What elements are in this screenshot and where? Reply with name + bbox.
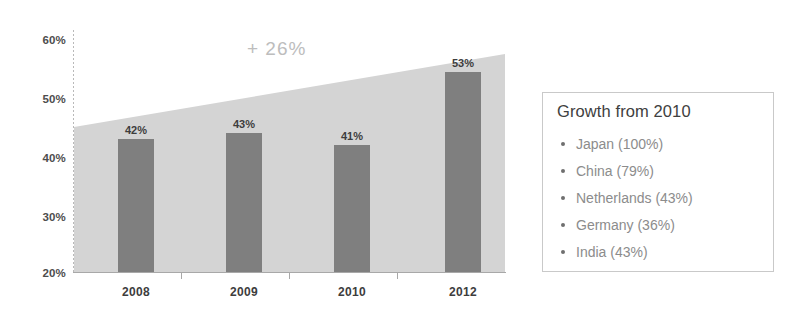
bar-value-2009: 43%	[214, 118, 274, 130]
bar-value-2010: 41%	[322, 130, 382, 142]
bar-chart: 60% 50% 40% 30% 20% 42% 43% 41% 53% + 26…	[0, 0, 530, 323]
x-tick-mark-2	[289, 272, 290, 279]
plot-area: 42% 43% 41% 53%	[74, 30, 505, 272]
bullet-icon	[561, 142, 565, 146]
y-tick-label-50: 50%	[20, 93, 66, 105]
legend-item: Netherlands (43%)	[557, 185, 767, 212]
x-axis-label-2008: 2008	[81, 285, 191, 299]
bullet-icon	[561, 223, 565, 227]
legend-item-label: Japan (100%)	[576, 136, 663, 152]
bar-2008	[118, 139, 154, 272]
legend-item: Germany (36%)	[557, 212, 767, 239]
bullet-icon	[561, 169, 565, 173]
x-tick-mark-3	[397, 272, 398, 279]
bullet-icon	[561, 196, 565, 200]
y-tick-label-20: 20%	[20, 267, 66, 279]
legend-panel: Growth from 2010 Japan (100%) China (79%…	[542, 92, 774, 272]
bullet-icon	[561, 250, 565, 254]
legend-item-list: Japan (100%) China (79%) Netherlands (43…	[557, 131, 767, 266]
bar-2009	[226, 133, 262, 272]
x-axis-label-2012: 2012	[408, 285, 518, 299]
bar-2010	[334, 145, 370, 272]
y-tick-label-60: 60%	[20, 34, 66, 46]
x-axis-label-2009: 2009	[189, 285, 299, 299]
legend-title: Growth from 2010	[557, 102, 691, 121]
legend-item: India (43%)	[557, 239, 767, 266]
bar-2012	[445, 72, 481, 272]
y-axis-tick-labels: 60% 50% 40% 30% 20%	[16, 0, 66, 323]
legend-item-label: India (43%)	[576, 244, 648, 260]
legend-item: Japan (100%)	[557, 131, 767, 158]
legend-item: China (79%)	[557, 158, 767, 185]
legend-item-label: Germany (36%)	[576, 217, 675, 233]
y-tick-label-40: 40%	[20, 152, 66, 164]
x-axis-label-2010: 2010	[297, 285, 407, 299]
bar-value-2008: 42%	[106, 124, 166, 136]
growth-annotation-label: + 26%	[247, 38, 306, 60]
legend-item-label: China (79%)	[576, 163, 654, 179]
x-tick-mark-1	[181, 272, 182, 279]
legend-item-label: Netherlands (43%)	[576, 190, 693, 206]
y-tick-label-30: 30%	[20, 211, 66, 223]
bar-value-2012: 53%	[433, 57, 493, 69]
